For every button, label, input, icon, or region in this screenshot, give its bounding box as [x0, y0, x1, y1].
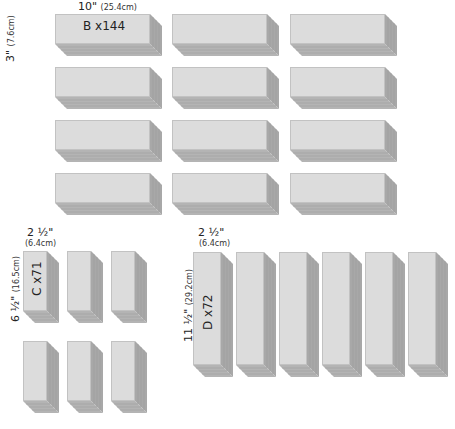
b-width-label: 10" (25.4cm) — [78, 0, 137, 13]
c-block-stack-2 — [67, 251, 105, 325]
c-height-inches: 6 ½" — [9, 296, 22, 322]
b-block-stack-9 — [290, 120, 399, 164]
d-block-label: D x72 — [201, 295, 215, 330]
c-block-label: C x71 — [30, 261, 44, 296]
b-height-inches: 3" — [4, 50, 17, 62]
c-width-label: 2 ½" (6.4cm) — [24, 226, 56, 248]
c-block-stack-3 — [111, 251, 149, 325]
b-block-stack-12 — [290, 173, 399, 217]
d-height-metric: (29.2cm) — [185, 269, 194, 305]
d-height-inches: 11 ½" — [182, 309, 195, 342]
d-height-label: 11 ½" (29.2cm) — [182, 269, 195, 342]
b-height-metric: (7.6cm) — [7, 15, 16, 46]
d-width-inches: 2 ½" — [198, 226, 230, 239]
b-block-stack-2 — [172, 14, 281, 58]
c-block-stack-4 — [23, 341, 61, 415]
b-width-metric: (25.4cm) — [101, 3, 137, 12]
d-block-stack-5 — [365, 252, 407, 379]
d-width-label: 2 ½" (6.4cm) — [198, 226, 230, 248]
c-height-label: 6 ½" (16.5cm) — [9, 256, 22, 322]
b-block-stack-10 — [55, 173, 164, 217]
b-block-label: B x144 — [83, 19, 125, 33]
b-block-stack-11 — [172, 173, 281, 217]
b-block-stack-3 — [290, 14, 399, 58]
d-block-stack-2 — [236, 252, 278, 379]
d-block-stack-4 — [322, 252, 364, 379]
c-width-metric: (6.4cm) — [25, 239, 56, 248]
c-block-stack-6 — [111, 341, 149, 415]
d-width-metric: (6.4cm) — [199, 239, 230, 248]
d-block-stack-6 — [408, 252, 450, 379]
b-block-stack-7 — [55, 120, 164, 164]
b-height-label: 3" (7.6cm) — [4, 15, 17, 62]
b-width-inches: 10" — [78, 0, 97, 13]
b-block-stack-5 — [172, 67, 281, 111]
c-block-stack-5 — [67, 341, 105, 415]
c-height-metric: (16.5cm) — [12, 256, 21, 292]
b-block-stack-6 — [290, 67, 399, 111]
b-block-stack-4 — [55, 67, 164, 111]
b-block-stack-8 — [172, 120, 281, 164]
c-width-inches: 2 ½" — [24, 226, 56, 239]
d-block-stack-3 — [279, 252, 321, 379]
